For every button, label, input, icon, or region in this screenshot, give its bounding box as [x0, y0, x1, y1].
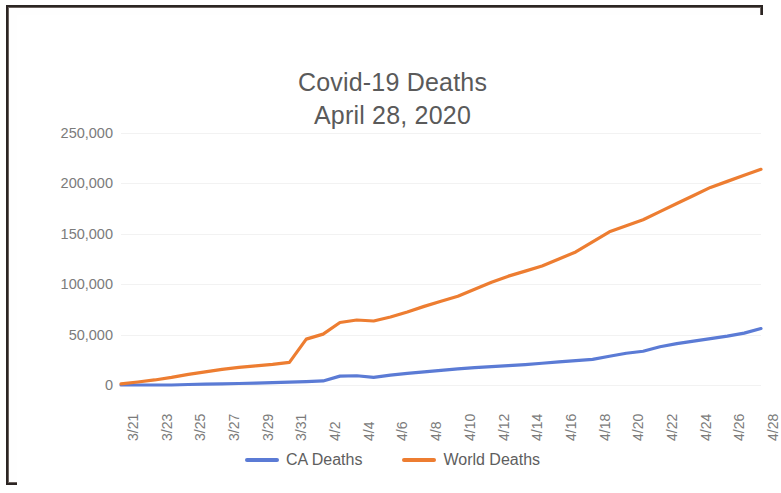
- y-axis-tick-label: 0: [35, 377, 113, 393]
- y-axis-tick-label: 100,000: [35, 276, 113, 292]
- x-axis-tick-label: 4/26: [732, 414, 747, 441]
- x-axis-tick-label: 4/20: [631, 414, 646, 441]
- x-axis-tick-label: 4/24: [699, 414, 714, 441]
- x-axis-tick-label: 4/16: [564, 414, 579, 441]
- x-axis-tick-label: 3/27: [227, 414, 242, 441]
- legend-item[interactable]: World Deaths: [402, 451, 540, 469]
- x-axis-tick-label: 3/31: [294, 414, 309, 441]
- x-axis-tick-label: 4/10: [463, 414, 478, 441]
- y-axis-tick-label: 50,000: [35, 327, 113, 343]
- chart-title-line2: April 28, 2020: [17, 99, 768, 132]
- legend-color-swatch: [245, 458, 279, 462]
- x-axis-tick-label: 3/29: [261, 414, 276, 441]
- plot-area: [121, 133, 761, 385]
- x-axis-tick-label: 4/14: [530, 414, 545, 441]
- y-axis: 250,000200,000150,000100,00050,0000: [35, 123, 113, 395]
- chart-title-line1: Covid-19 Deaths: [298, 68, 487, 96]
- series-lines: [121, 133, 761, 385]
- x-axis-tick-label: 4/8: [429, 422, 444, 441]
- series-line: [121, 329, 761, 385]
- y-axis-tick-label: 150,000: [35, 226, 113, 242]
- series-line: [121, 169, 761, 384]
- chart-legend: CA DeathsWorld Deaths: [17, 451, 768, 469]
- x-axis-tick-label: 3/21: [126, 414, 141, 441]
- page-frame: Covid-19 Deaths April 28, 2020 250,00020…: [6, 5, 763, 485]
- x-axis-tick-label: 4/2: [328, 422, 343, 441]
- x-axis-tick-label: 4/18: [598, 414, 613, 441]
- x-axis-tick-label: 4/6: [395, 422, 410, 441]
- x-axis-tick-label: 3/25: [193, 414, 208, 441]
- chart-canvas: Covid-19 Deaths April 28, 2020 250,00020…: [17, 15, 768, 489]
- legend-item[interactable]: CA Deaths: [245, 451, 362, 469]
- x-axis-tick-label: 3/23: [160, 414, 175, 441]
- x-axis: 3/213/233/253/273/293/314/24/44/64/84/10…: [121, 389, 761, 447]
- x-axis-tick-label: 4/28: [766, 414, 781, 441]
- legend-label: World Deaths: [443, 451, 540, 469]
- x-axis-tick-label: 4/12: [497, 414, 512, 441]
- legend-label: CA Deaths: [286, 451, 362, 469]
- y-axis-tick-label: 200,000: [35, 175, 113, 191]
- x-axis-tick-label: 4/22: [665, 414, 680, 441]
- legend-color-swatch: [402, 458, 436, 462]
- y-axis-tick-label: 250,000: [35, 125, 113, 141]
- x-axis-tick-label: 4/4: [362, 422, 377, 441]
